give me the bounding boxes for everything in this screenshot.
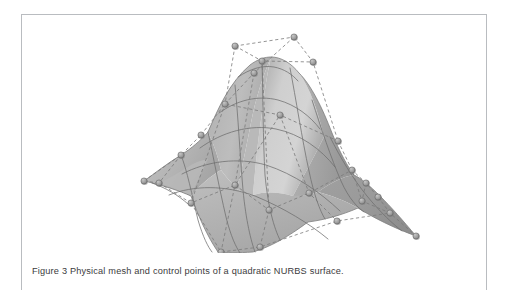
control-point-marker[interactable] [310,59,317,66]
control-point-marker[interactable] [413,233,420,240]
figure-frame: Figure 3 Physical mesh and control point… [21,14,487,290]
control-point-dot[interactable] [188,200,194,206]
figure-caption: Figure 3 Physical mesh and control point… [32,265,476,277]
control-point-dot[interactable] [359,198,365,204]
control-point-dot[interactable] [349,167,355,173]
control-point-dot[interactable] [198,132,204,138]
figure-page: Figure 3 Physical mesh and control point… [0,0,511,290]
control-point-dot[interactable] [259,58,265,64]
control-point-dot[interactable] [277,112,283,118]
control-point-dot[interactable] [218,249,224,253]
control-point-dot[interactable] [156,180,162,186]
control-point-dot[interactable] [363,180,369,186]
control-point-dot[interactable] [387,210,393,216]
control-point-dot[interactable] [232,182,238,188]
control-point-dot[interactable] [310,59,316,65]
control-point-dot[interactable] [232,43,238,49]
control-point-marker[interactable] [232,43,239,50]
control-point-dot[interactable] [413,233,419,239]
control-point-dot[interactable] [178,152,184,158]
control-point-dot[interactable] [257,244,263,250]
control-net-row-top [235,37,294,46]
control-point-dot[interactable] [375,194,381,200]
control-point-dot[interactable] [334,218,340,224]
control-point-marker[interactable] [291,34,298,41]
control-point-marker[interactable] [198,132,205,139]
control-point-dot[interactable] [141,178,147,184]
control-point-dot[interactable] [306,190,312,196]
figure-image-area [22,15,486,253]
control-point-dot[interactable] [335,138,341,144]
control-point-dot[interactable] [222,101,228,107]
nurbs-surface-illustration [22,15,486,253]
control-point-dot[interactable] [251,70,257,76]
control-point-dot[interactable] [266,207,272,213]
control-point-marker[interactable] [334,218,341,225]
surface-shading [144,57,416,253]
control-point-dot[interactable] [291,34,297,40]
